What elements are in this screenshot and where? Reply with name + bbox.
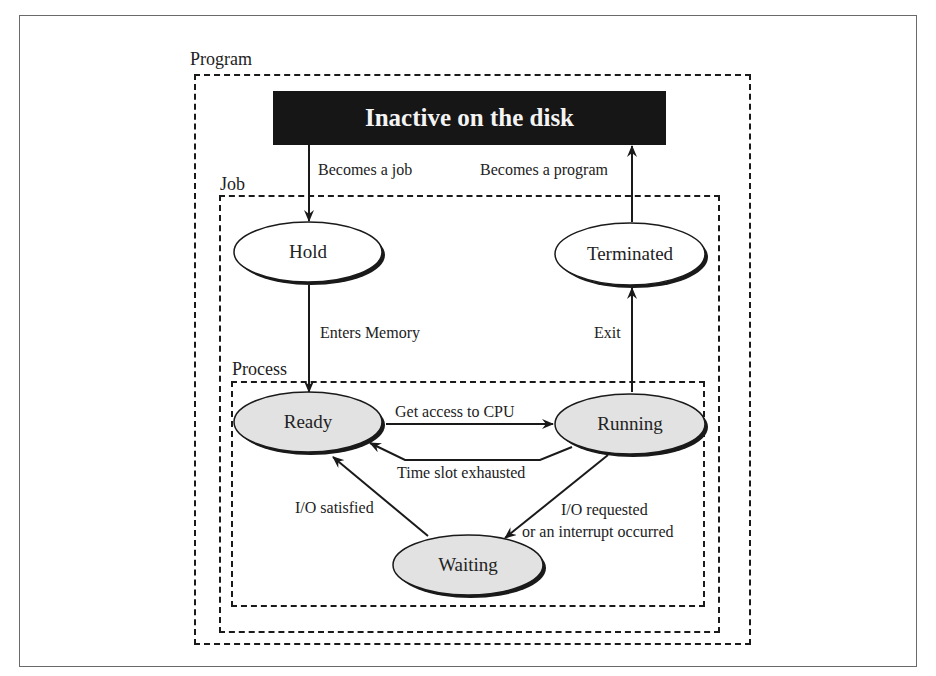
label-interrupt-occurred: or an interrupt occurred bbox=[522, 523, 673, 540]
edge-time-slot bbox=[370, 443, 572, 460]
label-io-requested: I/O requested bbox=[561, 501, 648, 518]
state-terminated: Terminated bbox=[555, 223, 705, 285]
label-get-cpu: Get access to CPU bbox=[395, 403, 515, 420]
state-running: Running bbox=[555, 394, 705, 454]
label-enters-memory: Enters Memory bbox=[320, 324, 420, 341]
label-time-slot: Time slot exhausted bbox=[397, 464, 525, 481]
label-exit: Exit bbox=[594, 324, 621, 341]
label-io-satisfied: I/O satisfied bbox=[295, 499, 374, 516]
state-ready: Ready bbox=[234, 392, 382, 452]
state-hold: Hold bbox=[234, 222, 382, 282]
label-becomes-job: Becomes a job bbox=[318, 161, 412, 178]
state-waiting: Waiting bbox=[393, 535, 543, 595]
label-becomes-program: Becomes a program bbox=[480, 161, 608, 178]
